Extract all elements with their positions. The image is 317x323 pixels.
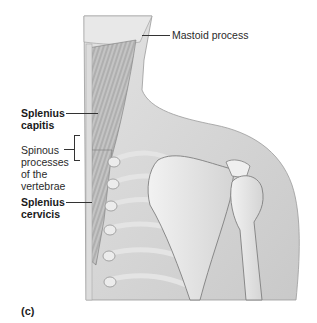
label-mastoid-process: Mastoid process	[172, 29, 248, 41]
label-splenius-capitis: Splenius capitis	[21, 107, 65, 131]
anatomy-figure: Mastoid process Splenius capitis Spinous…	[0, 0, 317, 323]
mastoid-leader-line	[142, 35, 170, 36]
spinous-bracket	[74, 135, 75, 160]
spinous-bracket-top	[74, 135, 80, 136]
splenius-capitis-leader-line	[66, 113, 98, 114]
spinous-leader-line	[64, 149, 74, 150]
label-splenius-cervicis: Splenius cervicis	[21, 196, 65, 220]
panel-label: (c)	[21, 305, 34, 317]
splenius-cervicis-leader-line	[66, 202, 92, 203]
spinal-column	[86, 44, 92, 300]
spinous-bracket-bottom	[74, 160, 80, 161]
label-spinous-processes: Spinous processes of the vertebrae	[21, 144, 69, 192]
